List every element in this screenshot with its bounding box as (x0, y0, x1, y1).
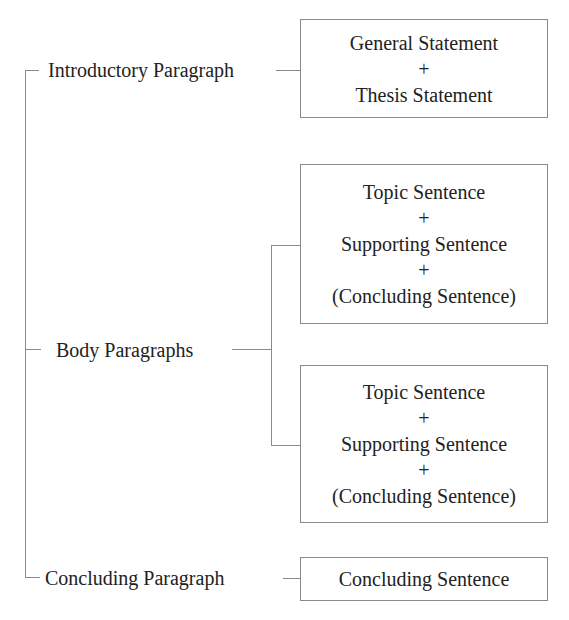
concluding-paragraph-label: Concluding Paragraph (45, 566, 224, 590)
plus-sign: + (418, 56, 429, 82)
conclusion-content-box: Concluding Sentence (300, 557, 548, 601)
body-inner-bracket-vertical (271, 245, 272, 445)
conclusion-bracket-tick (25, 577, 40, 578)
thesis-statement-text: Thesis Statement (355, 82, 492, 108)
concluding-sentence-text: Concluding Sentence (339, 566, 510, 592)
plus-sign: + (418, 457, 429, 483)
body-paragraphs-label: Body Paragraphs (56, 338, 193, 362)
body-box1-connector (271, 245, 300, 246)
supporting-sentence-text: Supporting Sentence (341, 431, 507, 457)
concluding-sentence-optional-text: (Concluding Sentence) (332, 483, 516, 509)
general-statement-text: General Statement (350, 30, 498, 56)
body-paragraph-box-1: Topic Sentence + Supporting Sentence + (… (300, 164, 548, 324)
plus-sign: + (418, 257, 429, 283)
main-bracket-vertical (25, 70, 26, 578)
body-connector (232, 349, 271, 350)
body-bracket-tick (25, 349, 41, 350)
body-paragraph-box-2: Topic Sentence + Supporting Sentence + (… (300, 365, 548, 523)
plus-sign: + (418, 405, 429, 431)
body-box2-connector (271, 445, 300, 446)
supporting-sentence-text: Supporting Sentence (341, 231, 507, 257)
intro-content-box: General Statement + Thesis Statement (300, 19, 548, 118)
topic-sentence-text: Topic Sentence (363, 179, 485, 205)
concluding-sentence-optional-text: (Concluding Sentence) (332, 283, 516, 309)
intro-connector (276, 70, 300, 71)
intro-bracket-tick (25, 70, 39, 71)
intro-paragraph-label: Introductory Paragraph (48, 58, 234, 82)
conclusion-connector (283, 578, 300, 579)
plus-sign: + (418, 205, 429, 231)
topic-sentence-text: Topic Sentence (363, 379, 485, 405)
